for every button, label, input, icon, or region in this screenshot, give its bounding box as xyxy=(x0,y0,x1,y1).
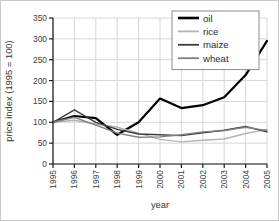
x-tick-label: 1997 xyxy=(91,170,101,189)
x-axis-title: year xyxy=(151,199,169,210)
x-tick-label: 2003 xyxy=(219,170,229,189)
x-tick-label: 2000 xyxy=(155,170,165,189)
x-tick-label: 2002 xyxy=(198,170,208,189)
y-tick-label: 250 xyxy=(33,55,47,65)
x-tick-label: 1999 xyxy=(134,170,144,189)
legend-label-maize: maize xyxy=(203,39,229,50)
x-tick-label: 2001 xyxy=(176,170,186,189)
price-index-figure: 0501001502002503003501995199619971998199… xyxy=(0,0,279,221)
y-tick-label: 100 xyxy=(33,117,47,127)
y-tick-label: 350 xyxy=(33,13,47,23)
y-tick-label: 150 xyxy=(33,96,47,106)
legend-label-wheat: wheat xyxy=(202,53,229,64)
x-tick-label: 2004 xyxy=(241,170,251,189)
y-axis-title: price index (1995 = 100) xyxy=(3,40,14,141)
legend-label-rice: rice xyxy=(203,26,218,37)
x-tick-label: 1996 xyxy=(69,170,79,189)
x-tick-label: 1998 xyxy=(112,170,122,189)
x-tick-label: 1995 xyxy=(48,170,58,189)
y-tick-label: 50 xyxy=(38,138,48,148)
legend-label-oil: oil xyxy=(203,13,213,24)
x-tick-label: 2005 xyxy=(262,170,272,189)
y-tick-label: 0 xyxy=(42,159,47,169)
y-tick-label: 200 xyxy=(33,76,47,86)
price-index-chart: 0501001502002503003501995199619971998199… xyxy=(1,1,279,221)
y-tick-label: 300 xyxy=(33,34,47,44)
